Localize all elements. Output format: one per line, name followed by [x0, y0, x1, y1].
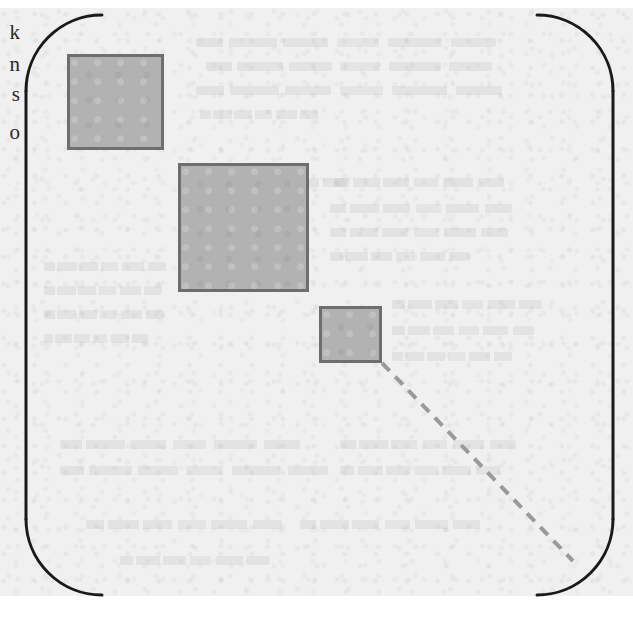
corner-arc-top-left	[26, 15, 102, 91]
scanned-page: knso	[0, 0, 633, 624]
corner-arc-bottom-right	[537, 519, 613, 595]
dashed-diagonal-line	[382, 363, 573, 561]
corner-arc-bottom-left	[26, 519, 102, 595]
corner-arc-top-right	[537, 15, 613, 91]
figure-outline	[0, 0, 633, 624]
